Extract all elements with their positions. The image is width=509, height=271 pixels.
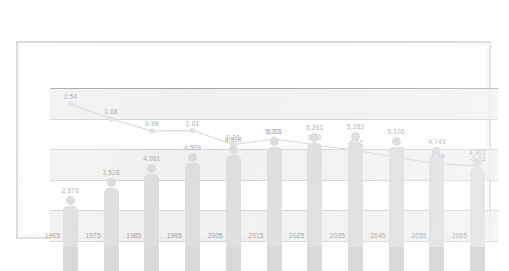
person-body-icon	[307, 143, 322, 271]
bar-value-label: 2,870	[62, 187, 79, 194]
bar-item[interactable]: 5,105	[376, 137, 416, 271]
chart-frame: 2.541.680.991.010.210.530.20-0.12-0.52-0…	[16, 41, 491, 239]
person-body-icon	[429, 157, 444, 271]
person-head-icon	[473, 158, 482, 167]
bar-value-label: 4,081	[143, 155, 160, 162]
bar-value-label: 4,743	[428, 138, 445, 145]
bar-item[interactable]: 4,081	[132, 164, 172, 271]
x-tick-label: 1975	[85, 232, 100, 239]
bar-value-label: 4,818	[225, 136, 242, 143]
bar-item[interactable]: 4,818	[213, 145, 253, 271]
bar-value-label: 5,283	[347, 123, 364, 130]
person-body-icon	[470, 168, 485, 271]
person-bar-icon	[225, 145, 241, 271]
bar-value-label: 5,261	[306, 124, 323, 131]
x-tick-label: 2025	[289, 232, 304, 239]
person-bar-icon	[185, 153, 201, 271]
person-bar-icon	[347, 132, 363, 271]
x-tick-label: 2005	[208, 232, 223, 239]
bar-item[interactable]: 4,743	[417, 147, 457, 271]
person-head-icon	[107, 178, 116, 187]
person-head-icon	[351, 132, 360, 141]
x-tick-label: 1985	[126, 232, 141, 239]
person-body-icon	[104, 188, 119, 271]
x-tick-label: 2035	[330, 232, 345, 239]
x-tick-label: 2065	[452, 232, 467, 239]
bar-value-label: 5,105	[388, 128, 405, 135]
x-axis-tick-labels: 1965197519851995200520152025203520452055…	[32, 232, 480, 244]
x-axis-line	[50, 88, 498, 89]
person-head-icon	[188, 153, 197, 162]
person-head-icon	[432, 147, 441, 156]
person-body-icon	[226, 155, 241, 271]
bar-value-label: 5,101	[265, 128, 282, 135]
person-bar-icon	[266, 137, 282, 271]
person-bar-icon	[470, 158, 486, 271]
bar-item[interactable]: 5,261	[295, 133, 335, 271]
x-tick-label: 1995	[167, 232, 182, 239]
person-bar-icon	[429, 147, 445, 271]
person-bar-icon	[103, 178, 119, 271]
x-tick-label: 2045	[371, 232, 386, 239]
person-body-icon	[348, 142, 363, 271]
person-bar-icon	[388, 137, 404, 271]
x-tick-label: 2015	[248, 232, 263, 239]
bar-item[interactable]: 4,302	[458, 158, 498, 271]
bar-item[interactable]: 4,509	[173, 153, 213, 271]
bar-item[interactable]: 5,283	[335, 132, 375, 271]
x-tick-label: 1965	[45, 232, 60, 239]
person-head-icon	[310, 133, 319, 142]
person-bar-icon	[307, 133, 323, 271]
person-head-icon	[392, 137, 401, 146]
person-head-icon	[270, 137, 279, 146]
person-body-icon	[144, 174, 159, 271]
bar-value-label: 4,509	[184, 144, 201, 151]
bar-item[interactable]: 5,101	[254, 137, 294, 271]
bar-value-label: 3,528	[102, 169, 119, 176]
person-head-icon	[229, 145, 238, 154]
bar-item[interactable]: 3,528	[91, 178, 131, 271]
person-head-icon	[147, 164, 156, 173]
person-head-icon	[66, 196, 75, 205]
person-body-icon	[267, 147, 282, 271]
person-bar-icon	[144, 164, 160, 271]
person-body-icon	[389, 147, 404, 271]
person-body-icon	[185, 163, 200, 271]
x-tick-label: 2055	[411, 232, 426, 239]
bar-value-label: 4,302	[469, 149, 486, 156]
